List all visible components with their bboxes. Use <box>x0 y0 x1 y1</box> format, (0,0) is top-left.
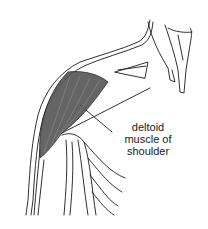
label-line-3: shoulder <box>120 145 176 157</box>
label-line-1: deltoid <box>120 121 176 133</box>
shoulder-illustration <box>0 0 208 229</box>
illustration-canvas: deltoid muscle of shoulder <box>0 0 208 229</box>
label-line-2: muscle of <box>120 133 176 145</box>
deltoid-label: deltoid muscle of shoulder <box>120 121 176 157</box>
